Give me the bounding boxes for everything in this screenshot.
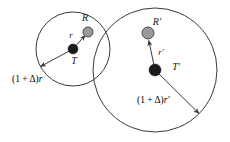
left-outer-radius-vector: [41, 49, 74, 67]
right-outer-radius-symbol: r′: [164, 95, 171, 105]
left-receiver-node: [83, 27, 93, 37]
right-outer-radius-label: (1 + Δ)r′: [137, 95, 170, 106]
right-outer-radius-prefix: (1 + Δ): [137, 95, 164, 106]
right-receiver-label: R′: [152, 16, 162, 27]
diagram-canvas: R T r (1 + Δ)r R′ T′ r′ (1 + Δ)r′: [0, 0, 230, 142]
right-outer-radius-vector: [155, 70, 199, 114]
right-receiver-node: [142, 27, 154, 39]
left-outer-radius-symbol: r: [39, 74, 43, 84]
figure-root: R T r (1 + Δ)r R′ T′ r′ (1 + Δ)r′: [0, 0, 230, 142]
left-receiver-label: R: [81, 12, 88, 23]
left-outer-radius-label: (1 + Δ)r: [12, 74, 43, 85]
right-sender-label: T′: [172, 61, 181, 72]
left-outer-radius-prefix: (1 + Δ): [12, 74, 39, 85]
left-radius-label: r: [69, 30, 73, 40]
left-sender-label: T: [71, 55, 78, 66]
left-sender-node: [68, 44, 78, 54]
right-sender-node: [149, 64, 161, 76]
right-radius-label: r′: [158, 47, 165, 57]
